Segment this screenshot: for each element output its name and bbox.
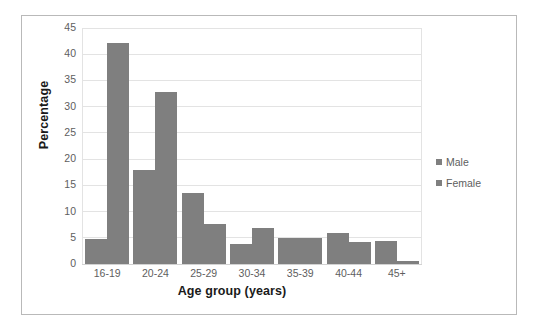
bar-male-16-19 [85, 239, 107, 264]
y-tick-label: 30 [54, 100, 76, 112]
bar-group [276, 28, 324, 264]
x-axis-title: Age group (years) [22, 284, 442, 298]
bar-male-20-24 [133, 170, 155, 264]
bar-female-30-34 [252, 228, 274, 264]
bar-group [180, 28, 228, 264]
y-tick-label: 35 [54, 73, 76, 85]
y-tick-label: 0 [54, 257, 76, 269]
bar-group [324, 28, 372, 264]
bar-female-25-29 [204, 224, 226, 264]
bar-female-16-19 [107, 43, 129, 264]
bar-group [131, 28, 179, 264]
legend-item-male[interactable]: Male [436, 156, 481, 168]
bar-group [228, 28, 276, 264]
bar-female-40-44 [349, 242, 371, 264]
chart-figure-frame: Percentage 051015202530354045 16-1920-24… [21, 15, 517, 315]
bar-group [83, 28, 131, 264]
bar-male-35-39 [278, 238, 300, 264]
legend-item-female[interactable]: Female [436, 177, 481, 189]
legend-label: Male [446, 156, 469, 168]
y-tick-label: 5 [54, 231, 76, 243]
bar-group [373, 28, 421, 264]
x-tick-label: 40-44 [324, 267, 372, 279]
legend-label: Female [446, 177, 481, 189]
bar-male-25-29 [182, 193, 204, 264]
x-tick-label: 25-29 [180, 267, 228, 279]
y-tick-label: 10 [54, 205, 76, 217]
x-tick-label: 35-39 [276, 267, 324, 279]
bar-male-40-44 [327, 233, 349, 264]
bar-female-20-24 [155, 92, 177, 264]
x-tick-label: 16-19 [83, 267, 131, 279]
y-tick-label: 25 [54, 126, 76, 138]
y-tick-label: 20 [54, 152, 76, 164]
bar-male-30-34 [230, 244, 252, 264]
y-axis-title: Percentage [37, 55, 51, 175]
bar-male-45+ [375, 241, 397, 264]
x-tick-label: 45+ [373, 267, 421, 279]
x-tick-label: 30-34 [228, 267, 276, 279]
bar-female-35-39 [300, 238, 322, 264]
y-tick-label: 15 [54, 178, 76, 190]
legend-swatch-icon [436, 159, 442, 165]
chart-legend: MaleFemale [436, 156, 481, 198]
legend-swatch-icon [436, 180, 442, 186]
plot-area: 051015202530354045 [82, 28, 422, 264]
y-tick-label: 40 [54, 47, 76, 59]
x-tick-label: 20-24 [131, 267, 179, 279]
bar-layer [83, 28, 421, 264]
bar-female-45+ [397, 261, 419, 264]
y-tick-label: 45 [54, 21, 76, 33]
